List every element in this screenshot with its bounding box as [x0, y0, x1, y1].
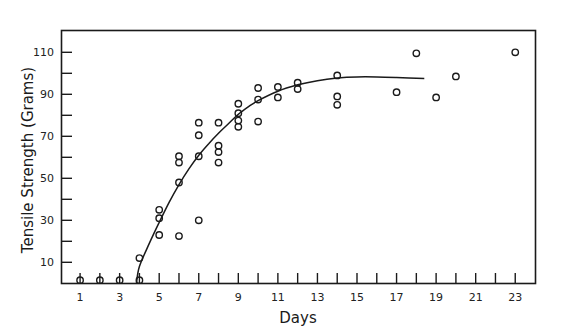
data-point — [215, 143, 221, 149]
y-tick-label: 30 — [40, 214, 54, 227]
data-point — [196, 132, 202, 138]
plot-frame — [62, 31, 536, 284]
x-tick-label: 7 — [195, 291, 202, 304]
data-point — [453, 73, 459, 79]
data-point — [275, 94, 281, 100]
data-point — [413, 50, 419, 56]
chart: 1357911131517192123 1030507090110 Days T… — [0, 0, 561, 333]
x-tick-label: 15 — [350, 291, 364, 304]
x-tick-label: 9 — [235, 291, 242, 304]
x-axis-tick-labels: 1357911131517192123 — [77, 291, 523, 304]
x-tick-label: 23 — [508, 291, 522, 304]
data-point — [255, 85, 261, 91]
data-point — [215, 159, 221, 165]
x-tick-label: 3 — [116, 291, 123, 304]
y-tick-label: 10 — [40, 256, 54, 269]
data-point — [136, 255, 142, 261]
x-tick-label: 17 — [390, 291, 404, 304]
x-axis-ticks — [80, 273, 515, 283]
x-tick-label: 5 — [156, 291, 163, 304]
data-point — [156, 207, 162, 213]
x-tick-label: 19 — [429, 291, 443, 304]
x-tick-label: 11 — [271, 291, 285, 304]
data-point — [156, 232, 162, 238]
data-point — [176, 233, 182, 239]
y-tick-label: 50 — [40, 172, 54, 185]
data-point — [512, 49, 518, 55]
data-point — [235, 101, 241, 107]
data-point — [334, 93, 340, 99]
data-point — [196, 217, 202, 223]
y-tick-label: 90 — [40, 88, 54, 101]
y-tick-label: 70 — [40, 130, 54, 143]
data-point — [196, 119, 202, 125]
data-point — [215, 149, 221, 155]
data-point — [255, 118, 261, 124]
x-tick-label: 21 — [469, 291, 483, 304]
y-axis-label: Tensile Strength (Grams) — [19, 67, 37, 254]
x-tick-label: 13 — [310, 291, 324, 304]
data-point — [176, 159, 182, 165]
data-point — [334, 102, 340, 108]
data-point — [393, 89, 399, 95]
y-tick-label: 110 — [33, 46, 54, 59]
y-axis-ticks — [62, 52, 72, 262]
x-axis-label: Days — [279, 309, 317, 327]
data-point — [275, 84, 281, 90]
data-point — [176, 153, 182, 159]
data-point — [294, 86, 300, 92]
x-tick-label: 1 — [77, 291, 84, 304]
data-point — [433, 94, 439, 100]
data-point — [235, 117, 241, 123]
data-point — [235, 124, 241, 130]
data-point — [215, 119, 221, 125]
